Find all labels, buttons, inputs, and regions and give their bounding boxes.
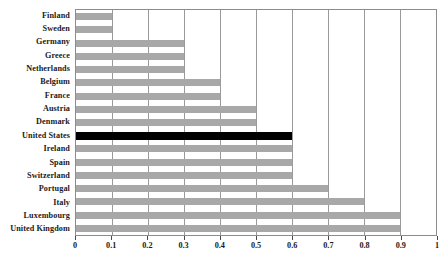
bar-row bbox=[76, 129, 436, 142]
bar-row bbox=[76, 36, 436, 49]
bar bbox=[76, 26, 112, 33]
bar-row bbox=[76, 195, 436, 208]
x-axis-tick-label: 0.5 bbox=[251, 240, 261, 252]
bar bbox=[76, 93, 220, 100]
bar bbox=[76, 40, 184, 47]
bar bbox=[76, 172, 292, 179]
plot-area bbox=[75, 9, 437, 236]
y-axis-category-labels: FinlandSwedenGermanyGreeceNetherlandsBel… bbox=[0, 9, 73, 236]
bar bbox=[76, 119, 256, 126]
bar-row bbox=[76, 50, 436, 63]
bar-row bbox=[76, 116, 436, 129]
y-axis-label: Ireland bbox=[0, 143, 73, 156]
bar bbox=[76, 53, 184, 60]
x-axis-tick-label: 0.3 bbox=[178, 240, 188, 252]
x-axis-tick-label: 0.1 bbox=[106, 240, 116, 252]
x-axis-tick-label: 0.2 bbox=[142, 240, 152, 252]
x-axis-tick-label: 0 bbox=[73, 240, 77, 252]
bar bbox=[76, 212, 400, 219]
bar bbox=[76, 159, 292, 166]
bar bbox=[76, 145, 292, 152]
bar bbox=[76, 106, 256, 113]
x-axis-tick-label: 0.8 bbox=[359, 240, 369, 252]
x-axis-tick-label: 0.9 bbox=[396, 240, 406, 252]
bar bbox=[76, 13, 112, 20]
y-axis-label: Luxembourg bbox=[0, 209, 73, 222]
bar bbox=[76, 66, 184, 73]
bar-chart: FinlandSwedenGermanyGreeceNetherlandsBel… bbox=[0, 0, 447, 253]
bar-row bbox=[76, 10, 436, 23]
y-axis-label: Greece bbox=[0, 49, 73, 62]
y-axis-label: Spain bbox=[0, 156, 73, 169]
y-axis-label: Netherlands bbox=[0, 62, 73, 75]
bar-row bbox=[76, 63, 436, 76]
bar-row bbox=[76, 142, 436, 155]
bar-series bbox=[76, 10, 436, 235]
bar bbox=[76, 225, 400, 232]
y-axis-label: United Kingdom bbox=[0, 223, 73, 236]
y-axis-label: Austria bbox=[0, 103, 73, 116]
x-axis-tick-label: 0.7 bbox=[323, 240, 333, 252]
y-axis-label: Switzerland bbox=[0, 169, 73, 182]
bar-row bbox=[76, 76, 436, 89]
bar-row bbox=[76, 156, 436, 169]
chart-title bbox=[0, 0, 447, 3]
y-axis-label: Sweden bbox=[0, 22, 73, 35]
y-axis-label: Belgium bbox=[0, 76, 73, 89]
bar bbox=[76, 185, 328, 192]
bar bbox=[76, 198, 364, 205]
bar bbox=[76, 79, 220, 86]
bar-row bbox=[76, 182, 436, 195]
bar-row bbox=[76, 222, 436, 235]
y-axis-label: Germany bbox=[0, 36, 73, 49]
x-axis-tick-label: 0.4 bbox=[215, 240, 225, 252]
bar-row bbox=[76, 209, 436, 222]
y-axis-label: Denmark bbox=[0, 116, 73, 129]
y-axis-label: Portugal bbox=[0, 183, 73, 196]
y-axis-label: France bbox=[0, 89, 73, 102]
bar-row bbox=[76, 103, 436, 116]
bar-row bbox=[76, 169, 436, 182]
x-axis-tick-label: 0.6 bbox=[287, 240, 297, 252]
x-axis: 00.10.20.30.40.50.60.70.80.91 bbox=[75, 236, 437, 253]
bar-row bbox=[76, 89, 436, 102]
bar-row bbox=[76, 23, 436, 36]
x-axis-tick-label: 1 bbox=[435, 240, 439, 252]
y-axis-label: United States bbox=[0, 129, 73, 142]
y-axis-label: Finland bbox=[0, 9, 73, 22]
y-axis-label: Italy bbox=[0, 196, 73, 209]
bar-highlighted bbox=[76, 132, 292, 140]
